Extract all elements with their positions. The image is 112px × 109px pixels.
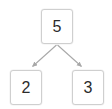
binary-tree-diagram: 5 2 3 <box>0 0 112 109</box>
tree-node-left-child-value: 2 <box>22 80 31 96</box>
tree-node-right-child: 3 <box>72 70 104 105</box>
edge-root-to-right <box>58 45 82 67</box>
edge-root-to-left <box>33 45 57 67</box>
tree-node-root-value: 5 <box>53 19 62 35</box>
tree-node-right-child-value: 3 <box>84 80 93 96</box>
tree-node-left-child: 2 <box>10 70 42 105</box>
tree-node-root: 5 <box>41 9 73 44</box>
